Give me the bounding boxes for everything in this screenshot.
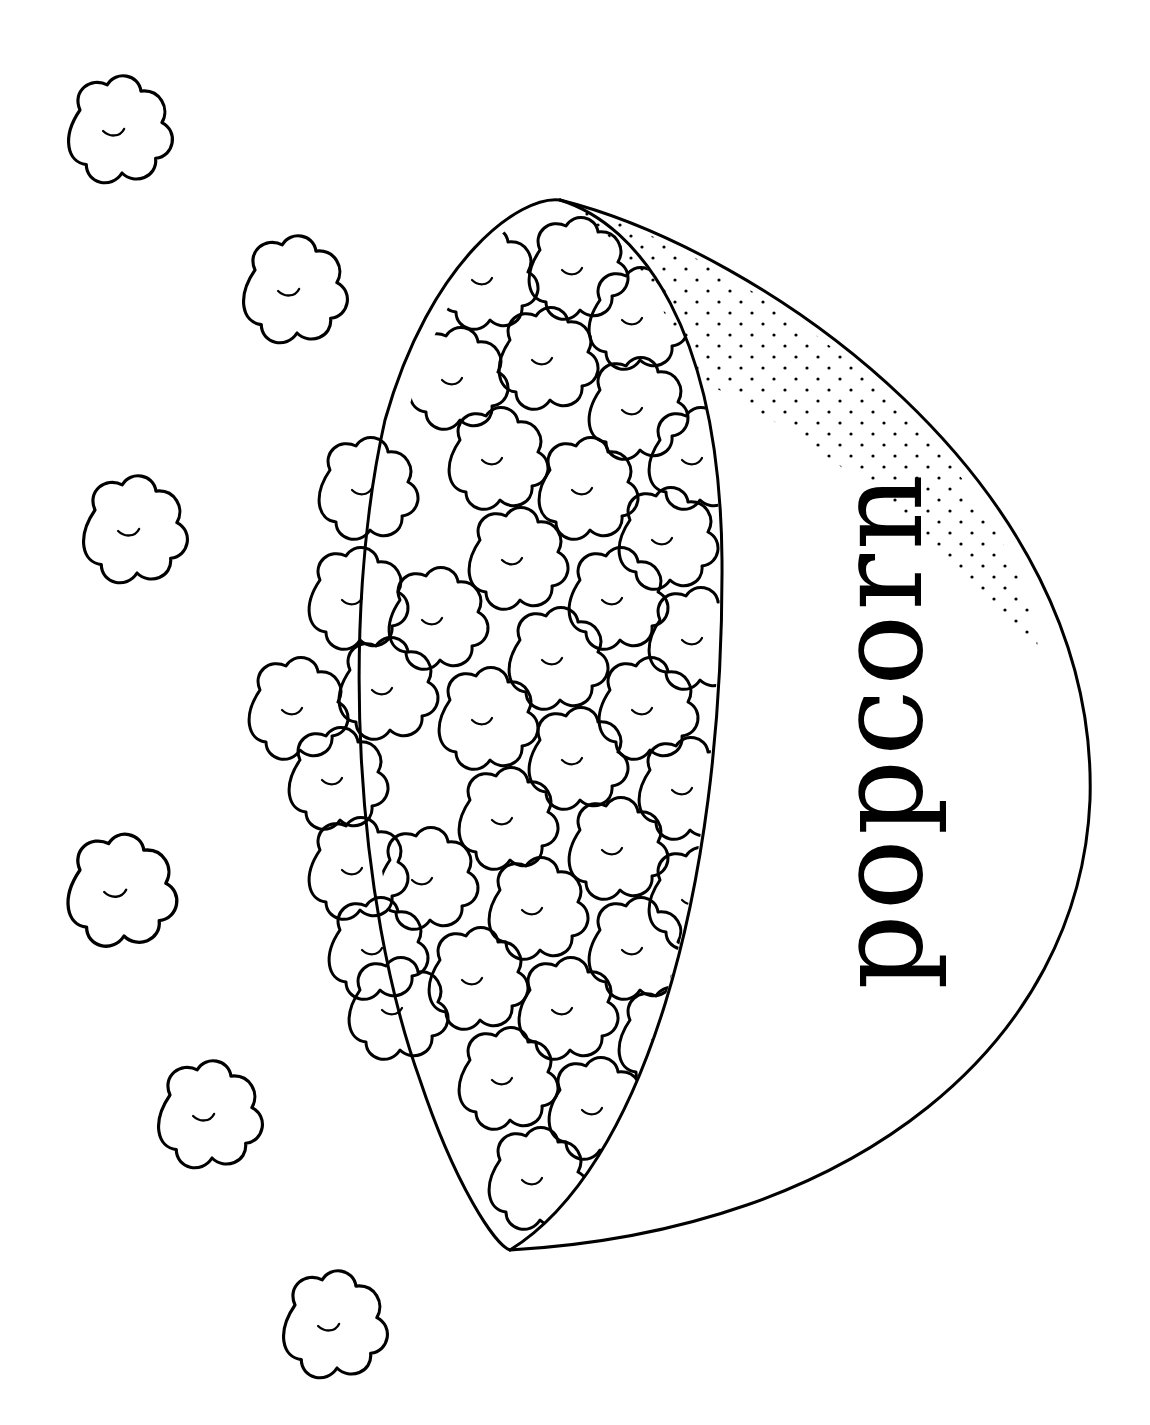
coloring-page-canvas (0, 0, 1150, 1425)
popcorn-kernel (68, 834, 177, 946)
bowl-label-text: popcorn (821, 470, 939, 990)
popcorn-kernel (84, 476, 188, 583)
popcorn-kernel (244, 236, 348, 343)
popcorn-pile (249, 217, 748, 1229)
popcorn-kernel (159, 1061, 263, 1168)
popcorn-kernel (69, 76, 173, 183)
popcorn-kernel (284, 1271, 388, 1378)
